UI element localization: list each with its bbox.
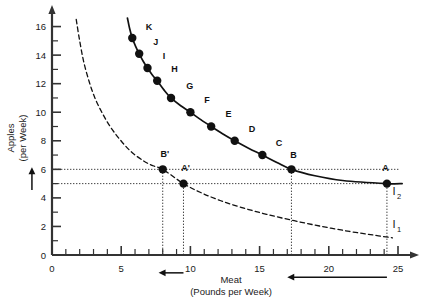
data-point-label-H: H bbox=[171, 64, 178, 74]
y-tick-label-0: 0 bbox=[41, 250, 46, 261]
data-point-I2-J bbox=[135, 49, 143, 57]
data-point-I2-D bbox=[230, 137, 238, 145]
x-tick-label-15: 15 bbox=[254, 263, 265, 274]
meat-change-large-arrow-head bbox=[287, 274, 294, 281]
curve-label-text-I2: I bbox=[392, 185, 395, 197]
curve-label-subscript-I2: 2 bbox=[397, 192, 401, 201]
x-tick-label-0: 0 bbox=[49, 263, 54, 274]
y-axis-arrowhead bbox=[48, 5, 55, 14]
data-point-label-C: C bbox=[276, 138, 283, 148]
data-point-label-Aprime: A' bbox=[181, 163, 190, 173]
data-point-label-J: J bbox=[153, 37, 158, 47]
y-tick-label-16: 16 bbox=[35, 21, 46, 32]
data-point-label-A: A bbox=[382, 163, 389, 173]
indifference-curve-chart: 05101520250246810121416KJIHGFEDCBAB'A'I2… bbox=[0, 0, 422, 302]
y-axis-title: Apples bbox=[5, 123, 16, 152]
x-axis-title: Meat bbox=[220, 274, 241, 285]
data-point-I2-A bbox=[383, 179, 391, 187]
curve-label-I1: I1 bbox=[392, 218, 401, 234]
y-tick-label-6: 6 bbox=[41, 164, 46, 175]
data-point-I2-E bbox=[207, 122, 215, 130]
data-point-label-D: D bbox=[249, 124, 256, 134]
x-tick-label-5: 5 bbox=[119, 263, 124, 274]
data-point-I2-G bbox=[167, 94, 175, 102]
data-point-label-Bprime: B' bbox=[160, 149, 169, 159]
data-point-I2-H bbox=[153, 77, 161, 85]
curve-label-subscript-I1: 1 bbox=[397, 225, 401, 234]
x-tick-label-25: 25 bbox=[393, 263, 404, 274]
data-point-label-B: B bbox=[290, 150, 297, 160]
chart-canvas: 05101520250246810121416KJIHGFEDCBAB'A'I2… bbox=[0, 0, 422, 302]
data-point-label-I: I bbox=[163, 51, 166, 61]
data-point-I2-I bbox=[143, 64, 151, 72]
meat-change-small-arrow-head bbox=[159, 269, 166, 276]
data-point-I2-C bbox=[258, 151, 266, 159]
y-tick-label-2: 2 bbox=[41, 221, 46, 232]
y-tick-label-10: 10 bbox=[35, 107, 46, 118]
y-tick-label-14: 14 bbox=[35, 50, 46, 61]
curve-label-text-I1: I bbox=[392, 218, 395, 230]
y-tick-label-8: 8 bbox=[41, 135, 46, 146]
y-axis-subtitle: (per Week) bbox=[17, 115, 28, 162]
curve-label-I2: I2 bbox=[392, 185, 401, 201]
x-tick-label-20: 20 bbox=[324, 263, 335, 274]
data-point-label-E: E bbox=[225, 109, 231, 119]
y-tick-label-12: 12 bbox=[35, 78, 46, 89]
x-tick-label-10: 10 bbox=[185, 263, 196, 274]
y-tick-label-4: 4 bbox=[41, 192, 46, 203]
x-axis-subtitle: (Pounds per Week) bbox=[190, 286, 272, 297]
curve-I1 bbox=[76, 19, 392, 237]
data-point-I1-Bprime bbox=[159, 165, 167, 173]
data-point-label-F: F bbox=[204, 95, 210, 105]
data-point-I2-K bbox=[128, 34, 136, 42]
data-point-I2-B bbox=[287, 165, 295, 173]
data-point-label-G: G bbox=[186, 81, 193, 91]
y-axis-change-arrow-head bbox=[29, 167, 36, 174]
data-point-label-K: K bbox=[146, 22, 153, 32]
data-point-I1-Aprime bbox=[179, 179, 187, 187]
x-axis-arrowhead bbox=[410, 251, 419, 258]
data-point-I2-F bbox=[186, 108, 194, 116]
